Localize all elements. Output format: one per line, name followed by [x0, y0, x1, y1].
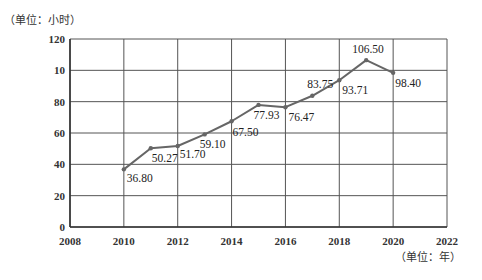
- data-point-marker: [229, 119, 233, 123]
- y-tick-label: 10: [54, 64, 66, 76]
- y-tick-label: 20: [54, 190, 66, 202]
- y-axis-ticks: 02040608010120: [49, 33, 66, 233]
- data-point-marker: [310, 94, 314, 98]
- data-label: 77.93: [254, 109, 280, 121]
- y-tick-label: 0: [60, 221, 66, 233]
- grid-lines: [70, 39, 447, 227]
- x-tick-label: 2010: [113, 235, 136, 247]
- data-label: 67.50: [233, 126, 259, 138]
- data-label: 76.47: [288, 111, 314, 123]
- x-tick-label: 2008: [59, 235, 82, 247]
- data-point-marker: [122, 167, 126, 171]
- data-label: 83.75: [307, 78, 333, 90]
- data-point-marker: [391, 71, 395, 75]
- y-tick-label: 120: [49, 33, 66, 45]
- data-point-marker: [202, 132, 206, 136]
- x-tick-label: 2014: [221, 235, 244, 247]
- data-label: 93.71: [342, 84, 368, 96]
- data-point-marker: [337, 78, 341, 82]
- data-point-marker: [149, 146, 153, 150]
- x-tick-label: 2016: [274, 235, 297, 247]
- x-tick-label: 2018: [328, 235, 351, 247]
- x-tick-label: 2012: [167, 235, 190, 247]
- data-label: 50.27: [152, 152, 178, 164]
- data-point-marker: [364, 58, 368, 62]
- data-point-marker: [256, 103, 260, 107]
- x-axis-ticks: 20082010201220142016201820202022: [59, 235, 459, 247]
- x-tick-label: 2022: [436, 235, 459, 247]
- y-tick-label: 40: [54, 158, 66, 170]
- line-chart: 02040608010120 2008201020122014201620182…: [0, 0, 482, 280]
- y-tick-label: 60: [54, 127, 66, 139]
- data-point-marker: [283, 105, 287, 109]
- x-tick-label: 2020: [382, 235, 405, 247]
- data-label: 98.40: [395, 77, 421, 89]
- y-tick-label: 80: [54, 96, 66, 108]
- data-label: 106.50: [352, 43, 384, 55]
- data-label: 59.10: [200, 138, 226, 150]
- data-label: 36.80: [127, 172, 153, 184]
